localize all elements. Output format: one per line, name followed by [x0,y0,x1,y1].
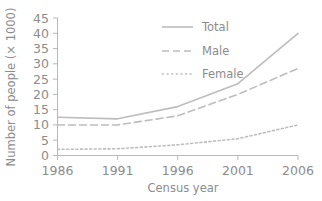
y-tick-label: 20 [33,87,49,102]
y-tick-label: 10 [33,117,49,132]
x-axis-tick-labels: 1986 1991 1996 2001 2006 [42,163,314,178]
series-line-female [58,125,299,149]
y-axis-tick-labels: 45 40 35 30 25 20 15 10 5 0 [33,11,49,164]
y-tick-label: 35 [33,41,49,56]
y-axis-ticks [53,18,58,156]
legend-item-female: Female [162,67,244,81]
y-axis-title: Number of people (× 1000) [4,8,18,167]
legend-label-total: Total [201,20,229,34]
legend-item-total: Total [162,20,229,34]
x-axis-title: Census year [148,181,219,195]
y-tick-label: 5 [41,133,49,148]
x-tick-label: 1996 [162,163,194,178]
y-tick-label: 45 [33,11,49,26]
series-line-total [58,33,299,119]
y-tick-label: 25 [33,72,49,87]
y-tick-label: 40 [33,26,49,41]
legend-label-female: Female [202,67,244,81]
legend-label-male: Male [202,44,229,58]
series-line-male [58,68,299,125]
y-tick-label: 30 [33,56,49,71]
chart-legend: Total Male Female [162,20,244,81]
y-tick-label: 15 [33,102,49,117]
x-tick-label: 2006 [282,163,314,178]
line-chart: 45 40 35 30 25 20 15 10 5 0 1986 1991 19… [0,0,322,201]
x-tick-label: 2001 [222,163,254,178]
x-tick-label: 1986 [42,163,74,178]
legend-item-male: Male [162,44,229,58]
x-tick-label: 1991 [102,163,134,178]
chart-figure: 45 40 35 30 25 20 15 10 5 0 1986 1991 19… [0,0,322,201]
x-axis-ticks [58,156,299,161]
y-tick-label: 0 [41,148,49,163]
